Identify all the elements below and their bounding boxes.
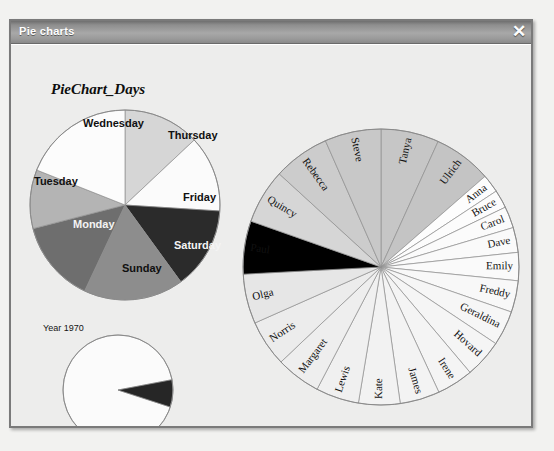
days-slice-label: Friday xyxy=(183,191,216,203)
pie-charts-window: Pie charts ✕ PieChart_Days TanyaUlrichAn… xyxy=(9,19,533,428)
days-slice-label: Wednesday xyxy=(83,117,144,129)
names-slice-label: Emily xyxy=(486,259,513,271)
days-slice-label: Saturday xyxy=(174,239,221,251)
piechart-days-title: PieChart_Days xyxy=(51,81,145,98)
days-slice-label: Thursday xyxy=(168,129,218,141)
piechart-names: TanyaUlrichAnnaBruceCarolDaveEmilyFreddy… xyxy=(239,125,523,409)
window-titlebar[interactable]: Pie charts ✕ xyxy=(11,21,531,44)
close-icon[interactable]: ✕ xyxy=(509,22,528,41)
window-client-area: PieChart_Days TanyaUlrichAnnaBruceCarolD… xyxy=(11,44,531,426)
pie-slice xyxy=(63,335,172,426)
days-slice-label: Monday xyxy=(73,218,115,230)
names-slice-label: Kate xyxy=(372,378,384,399)
years-slice-label: Year 1970 xyxy=(43,323,84,333)
window-title: Pie charts xyxy=(19,25,75,37)
days-slice-label: Sunday xyxy=(122,262,162,274)
piechart-years xyxy=(61,333,175,426)
days-slice-label: Tuesday xyxy=(34,175,78,187)
